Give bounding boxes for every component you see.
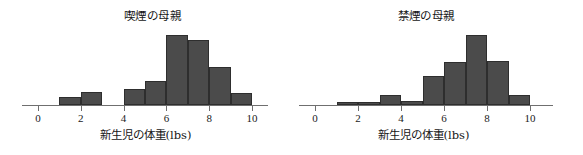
- histogram-bar: [487, 61, 509, 105]
- x-axis-tick: [38, 106, 39, 111]
- x-axis-line: [299, 105, 553, 106]
- x-axis-tick-label: 10: [520, 112, 540, 124]
- x-axis-tick-label: 6: [434, 112, 454, 124]
- x-axis-tick-label: 0: [28, 112, 48, 124]
- histogram-bar: [188, 40, 209, 105]
- histogram-bar: [423, 76, 445, 105]
- x-axis-tick-label: 2: [71, 112, 91, 124]
- x-axis-tick: [315, 106, 316, 111]
- histogram-bar: [380, 95, 402, 105]
- histogram-bar: [124, 89, 145, 105]
- x-axis-tick-label: 2: [348, 112, 368, 124]
- histogram-bar: [209, 67, 230, 105]
- x-axis-tick: [487, 106, 488, 111]
- x-axis-tick: [252, 106, 253, 111]
- histogram-bar: [166, 35, 187, 105]
- chart-panel-nonsmoking-mothers: 禁煙の母親 0246810 新生児の体重(lbs): [291, 0, 583, 155]
- histogram-bar: [337, 102, 359, 105]
- x-axis-tick: [358, 106, 359, 111]
- histogram-figure: 喫煙の母親 0246810 新生児の体重(lbs) 禁煙の母親 0246810 …: [0, 0, 583, 155]
- histogram-bar: [509, 95, 531, 105]
- histogram-bar: [358, 102, 380, 105]
- x-axis-tick-label: 6: [156, 112, 176, 124]
- histogram-bar: [231, 93, 252, 105]
- x-axis-tick: [124, 106, 125, 111]
- x-axis-label-smoking-mothers: 新生児の体重(lbs): [0, 126, 291, 142]
- x-axis-tick-label: 4: [391, 112, 411, 124]
- histogram-bar: [81, 92, 102, 105]
- histogram-bar: [59, 97, 80, 105]
- x-axis-tick-label: 0: [305, 112, 325, 124]
- x-axis-line: [22, 105, 268, 106]
- histogram-bar: [444, 62, 466, 105]
- histogram-bar: [145, 81, 166, 105]
- x-axis-tick-label: 8: [199, 112, 219, 124]
- x-axis-tick: [81, 106, 82, 111]
- chart-panel-smoking-mothers: 喫煙の母親 0246810 新生児の体重(lbs): [0, 0, 291, 155]
- x-axis-tick: [209, 106, 210, 111]
- histogram-bar: [466, 35, 488, 105]
- histogram-bar: [401, 101, 423, 105]
- x-axis-tick-label: 10: [242, 112, 262, 124]
- x-axis-tick: [401, 106, 402, 111]
- x-axis-tick: [530, 106, 531, 111]
- x-axis-tick: [166, 106, 167, 111]
- x-axis-tick-label: 8: [477, 112, 497, 124]
- x-axis-tick-label: 4: [114, 112, 134, 124]
- x-axis-label-nonsmoking-mothers: 新生児の体重(lbs): [291, 126, 556, 142]
- x-axis-tick: [444, 106, 445, 111]
